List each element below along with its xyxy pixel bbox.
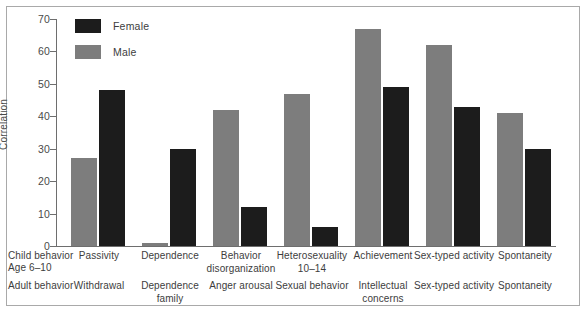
bar-male — [355, 29, 381, 246]
bar-male — [497, 113, 523, 246]
bar-female — [99, 90, 125, 246]
bar-male — [142, 243, 168, 246]
y-axis-title: Correlation — [0, 99, 9, 150]
y-axis-tick-label: 10 — [38, 208, 50, 220]
bar-male — [213, 110, 239, 246]
bar-female — [312, 227, 338, 246]
bar-group — [489, 19, 560, 246]
bar-male — [426, 45, 452, 246]
x-axis-category-labels: Child behaviorAge 6–10 Adult behavior Pa… — [7, 249, 579, 307]
bar-female — [383, 87, 409, 246]
y-axis-tick — [50, 84, 57, 85]
category-label-line: Spontaneity — [470, 280, 580, 293]
child-behavior-category-label: Spontaneity — [470, 250, 580, 263]
y-axis-tick-label: 40 — [38, 110, 50, 122]
legend-item-female: Female — [75, 17, 215, 35]
y-axis-tick — [50, 246, 57, 247]
bar-female — [170, 149, 196, 246]
y-axis-tick-label: 60 — [38, 45, 50, 57]
legend-swatch-male-icon — [75, 45, 101, 59]
bar-group — [347, 19, 418, 246]
y-axis-tick-label: 20 — [38, 175, 50, 187]
bar-group — [205, 19, 276, 246]
y-axis-labels: 010203040506070 — [22, 19, 50, 246]
y-axis-tick — [50, 214, 57, 215]
x-axis-line — [56, 246, 556, 247]
y-axis-tick — [50, 149, 57, 150]
y-axis-tick-label: 50 — [38, 78, 50, 90]
legend-label-male: Male — [113, 46, 137, 58]
bar-group — [276, 19, 347, 246]
legend-swatch-female-icon — [75, 19, 101, 33]
chart-legend: Female Male — [75, 17, 215, 69]
bar-male — [284, 94, 310, 246]
chart-figure: 010203040506070 Correlation Female Male … — [0, 0, 586, 312]
category-label-line: 10–14 — [257, 263, 367, 276]
y-axis-tick — [50, 19, 57, 20]
y-axis-tick — [50, 51, 57, 52]
bar-female — [454, 107, 480, 246]
y-axis-tick — [50, 181, 57, 182]
y-axis-tick-label: 30 — [38, 143, 50, 155]
row-label-line: Age 6–10 — [8, 262, 73, 274]
bar-female — [241, 207, 267, 246]
y-axis-tick — [50, 116, 57, 117]
legend-item-male: Male — [75, 43, 215, 61]
category-label-line: concerns — [328, 293, 438, 306]
adult-behavior-category-label: Spontaneity — [470, 280, 580, 293]
y-axis-tick-label: 70 — [38, 13, 50, 25]
bar-group — [418, 19, 489, 246]
bar-female — [525, 149, 551, 246]
bar-male — [71, 158, 97, 246]
category-label-line: family — [115, 293, 225, 306]
category-label-line: Spontaneity — [470, 250, 580, 263]
legend-label-female: Female — [113, 20, 149, 32]
